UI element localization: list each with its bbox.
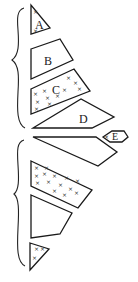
- label-d: D: [79, 112, 88, 126]
- svg-text:×: ×: [40, 245, 45, 252]
- svg-text:×: ×: [47, 100, 52, 107]
- svg-text:×: ×: [33, 8, 38, 15]
- svg-text:×: ×: [42, 170, 47, 177]
- label-e: E: [112, 131, 118, 142]
- svg-text:×: ×: [75, 177, 80, 184]
- svg-text:×: ×: [77, 85, 82, 92]
- svg-text:×: ×: [68, 185, 73, 192]
- svg-text:×: ×: [34, 105, 39, 112]
- svg-text:×: ×: [62, 86, 67, 93]
- svg-text:×: ×: [35, 179, 40, 186]
- svg-text:×: ×: [34, 245, 39, 252]
- svg-text:×: ×: [46, 178, 51, 185]
- lower-shape-4: × × ×: [30, 243, 49, 270]
- lower-brace: [14, 140, 25, 266]
- svg-text:×: ×: [35, 98, 40, 105]
- svg-text:×: ×: [34, 164, 39, 171]
- svg-text:×: ×: [58, 181, 63, 188]
- fan-diagram: × × A B × × × × × × × × × × × C D ×: [0, 0, 138, 282]
- label-c: C: [52, 83, 60, 97]
- svg-text:×: ×: [42, 87, 47, 94]
- svg-text:×: ×: [66, 74, 71, 81]
- label-b: B: [44, 54, 52, 68]
- svg-text:×: ×: [62, 191, 67, 198]
- svg-text:×: ×: [74, 189, 79, 196]
- svg-text:×: ×: [34, 172, 39, 179]
- svg-text:×: ×: [32, 254, 37, 261]
- lower-shape-1: [33, 137, 117, 166]
- svg-text:×: ×: [104, 133, 109, 140]
- svg-text:×: ×: [33, 90, 38, 97]
- upper-brace: [12, 8, 25, 128]
- shape-a: × × A: [31, 5, 50, 34]
- svg-text:×: ×: [52, 187, 57, 194]
- svg-text:×: ×: [52, 172, 57, 179]
- svg-text:×: ×: [64, 174, 69, 181]
- label-a: A: [35, 18, 44, 32]
- shape-e: × E: [103, 131, 128, 142]
